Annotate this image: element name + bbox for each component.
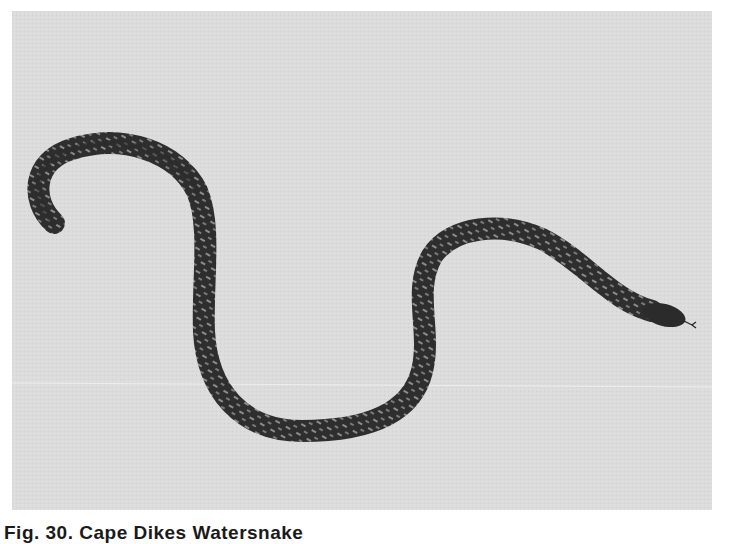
figure-caption: Fig. 30. Cape Dikes Watersnake bbox=[4, 522, 303, 544]
snake-illustration bbox=[12, 11, 712, 510]
snake-photograph bbox=[12, 11, 712, 510]
